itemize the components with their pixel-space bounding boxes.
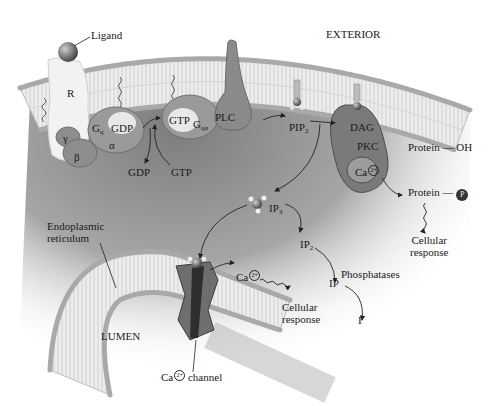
calcium-cellular-response-label: Cellularresponse [282, 301, 321, 325]
gtp-incoming-label: GTP [171, 166, 192, 178]
beta-label: β [74, 151, 80, 163]
phosphatases-label: Phosphatases [341, 268, 400, 280]
gdp-released-label: GDP [128, 166, 150, 178]
pathway-illustration [0, 0, 493, 406]
ip-label: IP [329, 277, 339, 289]
protein-oh-label: Protein — OH [408, 141, 472, 153]
ligand-label: Ligand [91, 29, 122, 41]
ip3-label: IP3 [269, 202, 282, 214]
er-label: Endoplasmicreticulum [47, 220, 104, 244]
plc-label: PLC [215, 111, 235, 123]
lumen-label: LUMEN [101, 330, 140, 342]
gqa-label: Gqα [193, 118, 208, 130]
pkc-label: PKC [357, 140, 378, 152]
diagram-canvas: Ligand EXTERIOR R γ β Gq GDP α GTP Gqα G… [0, 0, 493, 406]
gq-label: Gq [92, 122, 103, 134]
gtp-bound-label: GTP [169, 114, 190, 126]
g-beta-subunit [63, 139, 97, 167]
dag-label: DAG [350, 121, 374, 133]
pip2-label: PIP2 [289, 121, 308, 133]
inositol-label: I [358, 314, 362, 326]
exterior-label: EXTERIOR [326, 28, 380, 40]
released-calcium-label: Ca2+ [236, 270, 260, 283]
alpha-label: α [109, 139, 115, 151]
pkc-calcium-label: Ca2+ [355, 165, 379, 178]
receptor-label: R [67, 87, 74, 99]
protein-p-label: Protein — P [408, 186, 468, 201]
gamma-label: γ [63, 132, 68, 144]
protein-cellular-response-label: Cellularresponse [410, 234, 449, 258]
ca-channel-label: Ca2+ channel [161, 370, 222, 383]
ip2-label: IP2 [300, 238, 313, 250]
gdp-bound-label: GDP [111, 122, 133, 134]
